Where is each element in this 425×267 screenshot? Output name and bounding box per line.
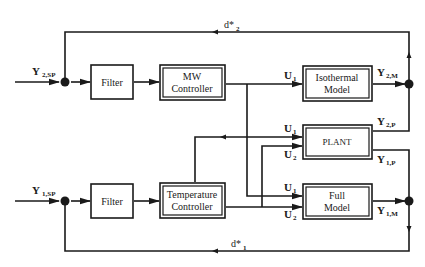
svg-text:Y: Y	[32, 184, 40, 196]
svg-text:1: 1	[293, 75, 297, 83]
signal-y1m: Y 1,M	[377, 204, 398, 218]
summing-junction-y2	[405, 80, 414, 89]
filter-bottom-label: Filter	[101, 196, 123, 207]
signal-u1-plant: U 1	[284, 122, 297, 136]
svg-text:2: 2	[293, 214, 297, 222]
svg-text:U: U	[284, 181, 292, 193]
mw-controller-label-1: MW	[183, 71, 202, 82]
isothermal-model-label-2: Model	[324, 84, 350, 95]
summing-junction-top	[61, 78, 70, 87]
signal-y1p: Y 1,P	[377, 153, 396, 167]
svg-text:1: 1	[293, 187, 297, 195]
filter-top-label: Filter	[101, 77, 123, 88]
svg-text:d*: d*	[224, 19, 234, 30]
temperature-controller-label-1: Temperature	[167, 189, 218, 200]
isothermal-model-label-1: Isothermal	[316, 72, 359, 83]
block-diagram: Filter Filter MW Controller Temperature …	[0, 0, 425, 267]
signal-u2-plant: U 2	[284, 148, 297, 162]
d1-arrow-icon	[212, 249, 218, 254]
signal-y2m: Y 2,M	[377, 66, 398, 80]
signal-y2sp: Y 2,SP	[32, 65, 56, 79]
plant-u1-arrow-icon	[220, 135, 226, 140]
d2-up-arrow-icon	[407, 52, 412, 58]
signal-u1-isothermal: U 1	[284, 69, 297, 83]
signal-y2p: Y 2,P	[377, 115, 396, 129]
svg-text:2,SP: 2,SP	[42, 71, 56, 79]
full-model-label-2: Model	[324, 202, 350, 213]
svg-text:1,SP: 1,SP	[42, 190, 56, 198]
svg-text:1: 1	[293, 128, 297, 136]
svg-text:U: U	[284, 148, 292, 160]
d2-arrow-icon	[212, 30, 218, 35]
svg-text:Y: Y	[377, 204, 385, 216]
svg-text:1,P: 1,P	[386, 159, 396, 167]
svg-text:Y: Y	[377, 66, 385, 78]
signal-u1-full: U 1	[284, 181, 297, 195]
summing-junction-bottom	[61, 197, 70, 206]
svg-text:1,M: 1,M	[386, 210, 398, 218]
signal-d2: d* 2	[224, 19, 240, 33]
signal-y1sp: Y 1,SP	[32, 184, 56, 198]
mw-to-full-u1-line	[247, 84, 302, 196]
svg-text:2: 2	[293, 154, 297, 162]
svg-text:U: U	[284, 208, 292, 220]
svg-text:2,P: 2,P	[386, 121, 396, 129]
svg-text:2: 2	[236, 25, 240, 33]
d1-down-arrow-icon	[407, 226, 412, 232]
plant-label: PLANT	[323, 137, 353, 147]
signal-d1: d* 1	[231, 238, 247, 252]
summing-junction-y1	[405, 197, 414, 206]
svg-text:Y: Y	[32, 65, 40, 77]
svg-text:2,M: 2,M	[386, 72, 398, 80]
svg-text:Y: Y	[377, 115, 385, 127]
svg-text:U: U	[284, 122, 292, 134]
svg-text:U: U	[284, 69, 292, 81]
svg-text:1: 1	[243, 244, 247, 252]
svg-text:Y: Y	[377, 153, 385, 165]
temperature-controller-label-2: Controller	[171, 201, 213, 212]
mw-controller-label-2: Controller	[171, 83, 213, 94]
full-model-label-1: Full	[329, 190, 345, 201]
svg-text:d*: d*	[231, 238, 241, 249]
signal-u2-full: U 2	[284, 208, 297, 222]
